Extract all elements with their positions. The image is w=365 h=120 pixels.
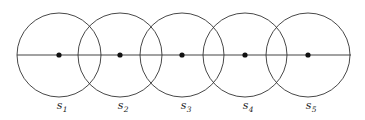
circle-chain-figure: s1 s2 s3 s4 s5	[0, 0, 365, 120]
circle-label-s4: s4	[243, 100, 253, 111]
center-dot-s1	[56, 52, 61, 57]
label-subscript-s5: 5	[312, 105, 317, 114]
label-letter-s2: s	[118, 99, 124, 112]
circle-label-s5: s5	[306, 100, 316, 111]
circle-label-s2: s2	[118, 100, 128, 111]
label-subscript-s2: 2	[124, 105, 129, 114]
label-letter-s3: s	[181, 99, 187, 112]
center-dot-s3	[179, 52, 184, 57]
label-subscript-s1: 1	[63, 105, 68, 114]
label-letter-s5: s	[306, 99, 312, 112]
label-letter-s1: s	[57, 99, 63, 112]
label-subscript-s3: 3	[187, 105, 192, 114]
label-letter-s4: s	[243, 99, 249, 112]
center-dot-s2	[117, 52, 122, 57]
circle-label-s1: s1	[57, 100, 67, 111]
label-subscript-s4: 4	[249, 105, 254, 114]
center-dot-s4	[242, 52, 247, 57]
center-dot-s5	[305, 52, 310, 57]
circle-label-s3: s3	[181, 100, 191, 111]
